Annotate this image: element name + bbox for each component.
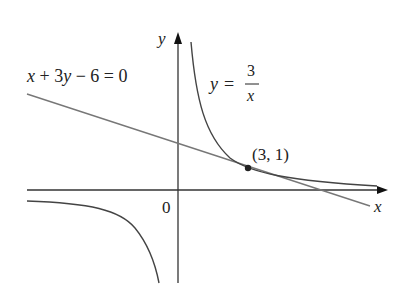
svg-text:=: = (224, 74, 234, 94)
svg-text:3: 3 (247, 62, 255, 79)
y-axis-arrow-icon (174, 32, 182, 44)
svg-text:y: y (208, 74, 218, 94)
hyperbola-equation-label: y = 3 x (208, 62, 259, 104)
y-axis-label: y (156, 29, 166, 48)
svg-text:x: x (246, 87, 254, 104)
hyperbola-upper-branch (191, 42, 377, 186)
graph-canvas: y x 0 x + 3y − 6 = 0 y = 3 x (3, 1) (0, 0, 406, 296)
hyperbola-lower-branch (27, 201, 159, 283)
line-equation-label: x + 3y − 6 = 0 (26, 66, 127, 86)
tangent-point-label: (3, 1) (252, 145, 289, 164)
y-axis (174, 32, 182, 283)
x-axis (27, 186, 388, 194)
x-axis-label: x (373, 197, 382, 216)
tangent-point-marker (245, 165, 251, 171)
x-axis-arrow-icon (377, 186, 388, 194)
tangent-line (27, 94, 370, 206)
origin-label: 0 (162, 198, 171, 217)
